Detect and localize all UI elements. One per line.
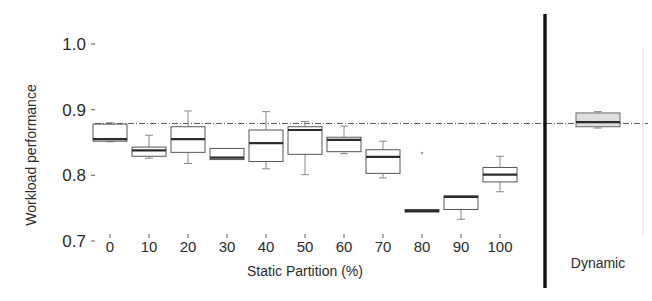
boxplot-figure: Workload performance Static Partition (%… — [0, 0, 652, 301]
y-tick-label: 0.8 — [62, 166, 86, 185]
box-plot-item — [210, 148, 244, 159]
group-label-dynamic: Dynamic — [571, 255, 625, 271]
box-body — [249, 130, 283, 162]
x-tick-label: 60 — [336, 238, 353, 255]
box-body — [366, 150, 400, 174]
box-plot-item — [576, 112, 620, 128]
x-tick-label: 40 — [258, 238, 275, 255]
x-tick-label: 70 — [375, 238, 392, 255]
box-plot-item — [405, 209, 439, 212]
x-tick-label: 80 — [414, 238, 431, 255]
boxplot-canvas: Workload performance Static Partition (%… — [0, 0, 652, 301]
x-tick-label: 10 — [141, 238, 158, 255]
x-tick-label: 90 — [453, 238, 470, 255]
x-tick-label: 20 — [180, 238, 197, 255]
figure-background — [0, 0, 652, 301]
y-axis-title: Workload performance — [23, 84, 39, 226]
y-tick-label: 0.9 — [62, 101, 86, 120]
x-axis-title: Static Partition (%) — [247, 263, 363, 279]
y-tick-label: 0.7 — [62, 232, 86, 251]
outlier-points — [421, 152, 424, 155]
x-tick-label: 0 — [106, 238, 114, 255]
outlier-point — [421, 152, 424, 155]
box-body — [576, 113, 620, 127]
box-body — [132, 147, 166, 156]
box-plot-item — [93, 123, 127, 142]
x-tick-label: 30 — [219, 238, 236, 255]
x-tick-label: 100 — [487, 238, 512, 255]
y-tick-label: 1.0 — [62, 35, 86, 54]
x-tick-label: 50 — [297, 238, 314, 255]
